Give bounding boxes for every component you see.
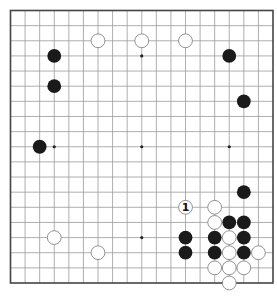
move-number-label: 1 [182,201,190,214]
white-stone [222,261,236,275]
star-point [228,145,231,148]
black-stone [222,49,236,63]
black-stone [237,185,251,199]
black-stone [237,216,251,230]
star-point [140,236,143,239]
black-stone [47,79,61,93]
black-stone [222,216,236,230]
black-stone [208,246,222,260]
black-stone [237,231,251,245]
black-stone [208,231,222,245]
white-stone [222,246,236,260]
black-stone [179,246,193,260]
black-stone [47,49,61,63]
black-stone [179,231,193,245]
white-stone [208,200,222,214]
white-stone [237,261,251,275]
white-stone [222,231,236,245]
white-stone [208,216,222,230]
white-stone [252,246,266,260]
go-board: 1 [0,0,277,301]
white-stone [222,276,236,290]
star-point [53,145,56,148]
black-stone [237,94,251,108]
black-stone [237,246,251,260]
white-stone [91,34,105,48]
white-stone [47,231,61,245]
white-stone [135,34,149,48]
star-point [140,145,143,148]
white-stone [208,261,222,275]
star-point [140,54,143,57]
black-stone [33,140,47,154]
white-stone [91,246,105,260]
white-stone [179,34,193,48]
